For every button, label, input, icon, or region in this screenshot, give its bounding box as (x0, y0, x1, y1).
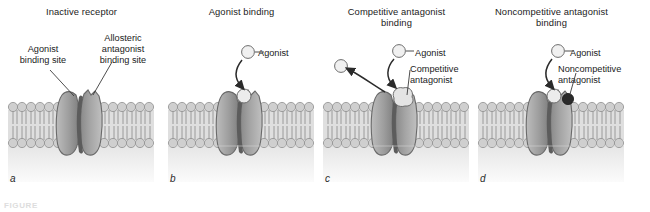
agonist-molecule-free (552, 45, 565, 58)
agonist-molecule-free (242, 46, 255, 59)
panel-d-graphic (470, 0, 650, 190)
lipid-bilayer-left (168, 102, 223, 147)
panel-c-competitive-antagonist: Competitive antagonist binding Agonist C… (315, 0, 478, 190)
noncompetitive-antagonist-leader-line (570, 73, 576, 94)
panel-d-noncompetitive-antagonist: Noncompetitive antagonist binding Agonis… (470, 0, 633, 190)
lipid-bilayer-right (259, 102, 314, 147)
lipid-bilayer-left (323, 102, 378, 147)
panel-c-letter: c (325, 173, 330, 184)
panel-a-letter: a (10, 173, 16, 184)
panel-b-graphic (160, 0, 323, 190)
panel-b-agonist-binding: Agonist binding Agonist (160, 0, 323, 190)
panel-c-graphic (315, 0, 478, 190)
agonist-molecule-free (393, 45, 406, 58)
receptor-subunit-right (81, 90, 102, 155)
lipid-bilayer-right (414, 102, 469, 147)
lipid-bilayer-right (99, 102, 154, 147)
agonist-molecule-displaced (335, 60, 348, 73)
lipid-bilayer-left (478, 102, 533, 147)
binding-arrow (546, 59, 552, 86)
panel-a-inactive-receptor: Inactive receptor Agonist binding site A… (0, 0, 163, 190)
receptor-protein (56, 90, 102, 155)
lipid-bilayer-right (569, 102, 624, 147)
leader-lines (50, 62, 112, 96)
agonist-molecule-bound (237, 89, 251, 103)
displacement-arrow-out (350, 70, 385, 92)
noncompetitive-antagonist-molecule-bound (562, 93, 573, 104)
binding-arrow-in (388, 59, 394, 85)
receptor-subunit-left (56, 92, 79, 155)
receptor-subunit-left (526, 92, 549, 155)
receptor-subunit-left (371, 92, 394, 155)
panel-b-letter: b (170, 173, 176, 184)
competitive-antagonist-molecule-bound (393, 88, 413, 107)
receptor-pharmacology-figure: Inactive receptor Agonist binding site A… (0, 0, 650, 212)
lipid-bilayer-left (8, 102, 63, 147)
figure-caption: FIGURE (4, 201, 38, 210)
agonist-molecule-bound (547, 89, 561, 103)
receptor-subunit-left (216, 92, 239, 155)
panel-a-graphic (0, 0, 163, 190)
panel-d-letter: d (480, 173, 486, 184)
binding-arrow (236, 60, 242, 86)
